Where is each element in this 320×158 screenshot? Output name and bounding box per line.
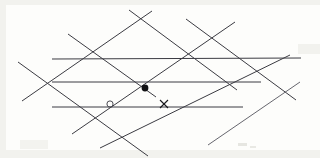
paper-background (0, 0, 320, 158)
scan-tint-bottom (0, 150, 320, 158)
filled-dot-marker (142, 85, 149, 92)
scan-tint-left (0, 0, 6, 158)
line-figure-svg (0, 0, 320, 158)
line-figure-canvas: x o Geometric line arrangement Scanned l… (0, 0, 320, 158)
scan-tint-top (0, 0, 320, 5)
scan-grain-lower-left (20, 140, 48, 149)
scan-grain-right (298, 44, 320, 54)
smudge-mark-2 (250, 146, 256, 148)
smudge-mark-1 (238, 143, 247, 146)
